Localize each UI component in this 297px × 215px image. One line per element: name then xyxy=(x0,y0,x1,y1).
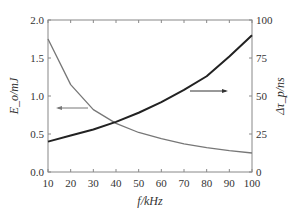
x-tick-label: 60 xyxy=(156,177,168,189)
x-tick-label: 100 xyxy=(244,177,261,189)
x-tick-label: 80 xyxy=(201,177,213,189)
right-arrow-head xyxy=(222,89,228,93)
x-tick-label: 50 xyxy=(133,177,145,189)
x-tick-label: 20 xyxy=(65,177,77,189)
y-right-axis-label: Δτ_p/ns xyxy=(273,77,287,116)
x-tick-label: 40 xyxy=(111,177,123,189)
y-right-tick-label: 25 xyxy=(256,128,268,140)
x-tick-label: 90 xyxy=(224,177,236,189)
x-tick-label: 10 xyxy=(43,177,55,189)
y-left-axis-label: E_o/mJ xyxy=(7,77,21,115)
series-Δτ_p xyxy=(48,35,252,141)
y-right-tick-label: 50 xyxy=(256,90,268,102)
series-E_o xyxy=(48,39,252,153)
dual-axis-line-chart: 1020304050607080901000.00.51.01.52.00255… xyxy=(0,0,297,215)
chart-container: 1020304050607080901000.00.51.01.52.00255… xyxy=(0,0,297,215)
y-left-tick-label: 0.5 xyxy=(30,128,44,140)
y-left-tick-label: 2.0 xyxy=(30,14,44,26)
left-arrow-head xyxy=(56,106,62,110)
y-right-tick-label: 100 xyxy=(256,14,273,26)
x-tick-label: 70 xyxy=(179,177,191,189)
x-tick-label: 30 xyxy=(88,177,100,189)
y-left-tick-label: 1.0 xyxy=(30,90,44,102)
y-right-tick-label: 0 xyxy=(256,166,262,178)
y-left-tick-label: 1.5 xyxy=(30,52,44,64)
x-axis-label: f/kHz xyxy=(137,194,163,208)
y-right-tick-label: 75 xyxy=(256,52,268,64)
y-left-tick-label: 0.0 xyxy=(30,166,44,178)
